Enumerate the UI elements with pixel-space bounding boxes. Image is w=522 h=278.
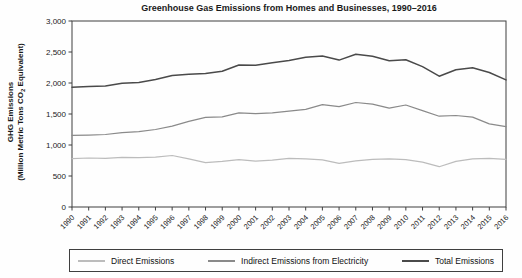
- x-tick-label: 2001: [242, 213, 260, 231]
- legend-item-direct: Direct Emissions: [78, 256, 174, 266]
- series-line-1: [72, 103, 506, 136]
- total-line-sample: [402, 260, 429, 262]
- x-tick-label: 1997: [175, 213, 193, 231]
- x-tick-label: 2016: [492, 213, 510, 231]
- x-tick-label: 2004: [292, 213, 310, 231]
- x-tick-label: 2007: [342, 213, 360, 231]
- y-tick-label: 0: [62, 203, 67, 212]
- x-tick-label: 1990: [58, 213, 76, 231]
- y-tick-label: 2,500: [46, 48, 67, 57]
- legend-item-total: Total Emissions: [402, 256, 494, 266]
- legend-label-total: Total Emissions: [435, 256, 494, 266]
- indirect-line-sample: [208, 260, 235, 262]
- y-tick-label: 3,000: [46, 17, 67, 26]
- legend-item-indirect: Indirect Emissions from Electricity: [208, 256, 368, 266]
- x-tick-label: 2012: [425, 213, 443, 231]
- y-tick-label: 500: [53, 172, 67, 181]
- plot-box: [72, 21, 506, 207]
- x-tick-label: 2005: [309, 213, 327, 231]
- plot-svg: 05001,0001,5002,0002,5003,00019901991199…: [0, 0, 522, 278]
- x-tick-label: 1996: [158, 213, 176, 231]
- y-tick-label: 2,000: [46, 79, 67, 88]
- x-tick-label: 1991: [75, 213, 93, 231]
- x-tick-label: 1994: [125, 213, 143, 231]
- direct-line-sample: [78, 260, 105, 262]
- x-tick-label: 1998: [192, 213, 210, 231]
- x-tick-label: 2008: [359, 213, 377, 231]
- x-axis: 1990199119921993199419951996199719981999…: [58, 207, 510, 231]
- x-tick-label: 1999: [208, 213, 226, 231]
- series-line-2: [72, 54, 506, 87]
- x-tick-label: 2002: [259, 213, 277, 231]
- x-tick-label: 2013: [442, 213, 460, 231]
- x-tick-label: 2006: [325, 213, 343, 231]
- chart-figure: Greenhouse Gas Emissions from Homes and …: [0, 0, 522, 278]
- x-tick-label: 1992: [92, 213, 110, 231]
- y-tick-label: 1,500: [46, 110, 67, 119]
- legend-label-indirect: Indirect Emissions from Electricity: [241, 256, 368, 266]
- series-line-0: [72, 156, 506, 167]
- x-tick-label: 2010: [392, 213, 410, 231]
- y-axis: 05001,0001,5002,0002,5003,000: [46, 17, 72, 212]
- y-tick-label: 1,000: [46, 141, 67, 150]
- legend: Direct Emissions Indirect Emissions from…: [69, 249, 503, 272]
- x-tick-label: 2000: [225, 213, 243, 231]
- x-tick-label: 2009: [375, 213, 393, 231]
- x-tick-label: 1995: [142, 213, 160, 231]
- x-tick-label: 2015: [476, 213, 494, 231]
- x-tick-label: 1993: [108, 213, 126, 231]
- x-tick-label: 2014: [459, 213, 477, 231]
- x-tick-label: 2003: [275, 213, 293, 231]
- x-tick-label: 2011: [409, 213, 427, 231]
- legend-label-direct: Direct Emissions: [111, 256, 174, 266]
